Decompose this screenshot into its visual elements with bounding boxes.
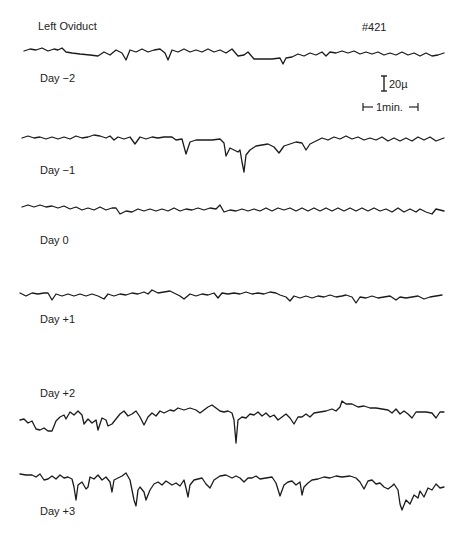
trace-5 bbox=[20, 473, 444, 510]
trace-1 bbox=[22, 135, 444, 172]
amplitude-scale-bar bbox=[381, 76, 387, 91]
trace-0 bbox=[24, 48, 444, 64]
trace-4 bbox=[20, 401, 444, 443]
trace-3 bbox=[20, 290, 442, 303]
time-scale-bar bbox=[363, 103, 418, 111]
trace-2 bbox=[22, 205, 444, 214]
traces-canvas bbox=[0, 0, 467, 538]
